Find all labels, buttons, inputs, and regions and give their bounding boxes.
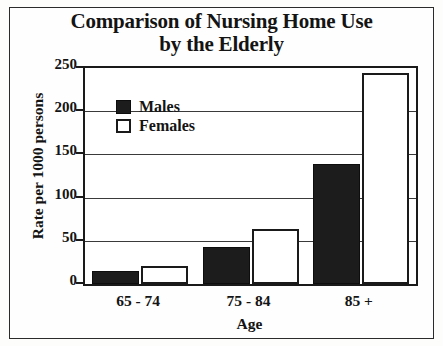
bar-males-65-74	[92, 271, 139, 284]
x-axis-label: Age	[83, 315, 416, 333]
legend-label-females: Females	[139, 118, 195, 134]
x-axis-tick-label: 65 - 74	[78, 292, 198, 310]
y-axis-label: Rate per 1000 persons	[29, 56, 47, 276]
legend-item-males: Males	[116, 97, 195, 116]
bar-males-75-84	[203, 247, 250, 284]
bar-females-65-74	[141, 266, 188, 284]
legend-swatch-males	[116, 100, 131, 114]
chart-title-line-1: Comparison of Nursing Home Use	[71, 9, 373, 33]
x-axis-tick-label: 75 - 84	[189, 292, 309, 310]
chart-figure: Comparison of Nursing Home Use by the El…	[0, 0, 443, 346]
chart-title-line-2: by the Elderly	[12, 33, 431, 56]
legend-label-males: Males	[139, 99, 180, 115]
bar-females-75-84	[252, 229, 299, 284]
x-axis-tick-label: 85 +	[299, 292, 419, 310]
legend-swatch-females	[116, 119, 131, 133]
bar-males-85+	[313, 164, 360, 284]
chart-legend: Males Females	[116, 97, 195, 135]
bar-females-85+	[362, 73, 409, 284]
chart-title: Comparison of Nursing Home Use by the El…	[12, 10, 431, 55]
legend-item-females: Females	[116, 116, 195, 135]
